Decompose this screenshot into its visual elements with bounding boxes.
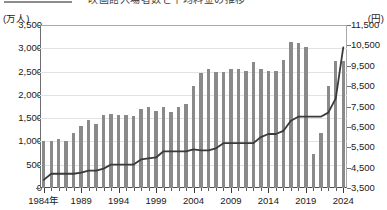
- x-axis-label: 1994: [108, 196, 129, 206]
- x-axis-tick-major: [156, 188, 157, 193]
- y-axis-tick-right: 7,500: [351, 102, 375, 112]
- x-axis-tick-major: [343, 188, 344, 193]
- x-axis-tick: [149, 188, 150, 191]
- x-axis-tick: [208, 188, 209, 191]
- x-axis-ticks: [40, 188, 347, 194]
- y-axis-tick-right: 3,500: [351, 183, 375, 193]
- x-axis-label: 1999: [145, 196, 166, 206]
- x-axis-tick: [291, 188, 292, 191]
- x-axis-tick: [186, 188, 187, 191]
- x-axis-tick: [126, 188, 127, 191]
- x-axis-tick: [96, 188, 97, 191]
- x-axis-tick: [283, 188, 284, 191]
- x-axis-tick: [336, 188, 337, 191]
- x-axis-tick: [276, 188, 277, 191]
- y-axis-tick-right: 5,500: [351, 142, 375, 152]
- y-axis-tick-right: 9,500: [351, 61, 375, 71]
- x-axis-label: 2009: [220, 196, 241, 206]
- x-axis-tick: [164, 188, 165, 191]
- y-axis-tick-mark: [347, 127, 351, 128]
- x-axis-tick: [104, 188, 105, 191]
- x-axis-tick: [59, 188, 60, 191]
- x-axis-label: 2024: [333, 196, 354, 206]
- x-axis-tick: [298, 188, 299, 191]
- x-axis-tick-major: [44, 188, 45, 193]
- x-axis-tick: [51, 188, 52, 191]
- x-axis-tick-major: [231, 188, 232, 193]
- x-axis-tick: [179, 188, 180, 191]
- x-axis-tick: [253, 188, 254, 191]
- x-axis-tick: [238, 188, 239, 191]
- x-axis-tick: [134, 188, 135, 191]
- x-axis-tick: [223, 188, 224, 191]
- y-axis-tick-mark: [347, 25, 351, 26]
- x-axis-label: 2019: [295, 196, 316, 206]
- chart-page: 映画館入場者数と平均料金の推移 (万人) (円) 05001,0001,5002…: [0, 0, 387, 210]
- x-axis-tick: [328, 188, 329, 191]
- x-axis-tick: [321, 188, 322, 191]
- x-axis-label: 2014: [258, 196, 279, 206]
- line-series: [40, 25, 347, 188]
- y-axis-tick-right: 8,500: [351, 81, 375, 91]
- y-axis-tick-mark: [347, 107, 351, 108]
- x-axis-tick: [201, 188, 202, 191]
- y-axis-tick-right: 10,500: [351, 40, 380, 50]
- x-axis-label: 2004: [183, 196, 204, 206]
- title-rule: [4, 1, 72, 3]
- x-axis-label: 1984年: [28, 196, 59, 206]
- price-line: [44, 47, 344, 179]
- x-axis-tick-major: [81, 188, 82, 193]
- y-axis-tick-mark: [347, 66, 351, 67]
- x-axis-tick: [66, 188, 67, 191]
- x-axis-tick: [246, 188, 247, 191]
- x-axis-tick: [74, 188, 75, 191]
- x-axis-tick: [111, 188, 112, 191]
- y-axis-tick-mark: [347, 188, 351, 189]
- x-axis-tick: [141, 188, 142, 191]
- y-axis-tick-mark: [347, 168, 351, 169]
- title-strip: 映画館入場者数と平均料金の推移: [0, 0, 387, 9]
- x-axis-tick: [89, 188, 90, 191]
- x-axis-tick: [216, 188, 217, 191]
- x-axis-labels: 1984年19891994199920042009201420192024: [0, 196, 387, 210]
- x-axis-tick-major: [268, 188, 269, 193]
- x-axis-tick-major: [194, 188, 195, 193]
- x-axis-tick-major: [306, 188, 307, 193]
- y-axis-tick-right: 4,500: [351, 163, 375, 173]
- x-axis-tick: [261, 188, 262, 191]
- x-axis-label: 1989: [71, 196, 92, 206]
- x-axis-tick-major: [119, 188, 120, 193]
- x-axis-tick: [313, 188, 314, 191]
- y-axis-tick-right: 6,500: [351, 122, 375, 132]
- page-title: 映画館入場者数と平均料金の推移: [88, 0, 246, 6]
- y-axis-tick-mark: [347, 45, 351, 46]
- y-axis-tick-mark: [347, 86, 351, 87]
- y-axis-tick-right: 11,500: [351, 20, 379, 30]
- plot-area: [40, 25, 347, 188]
- y-axis-tick-mark: [347, 147, 351, 148]
- x-axis-tick: [171, 188, 172, 191]
